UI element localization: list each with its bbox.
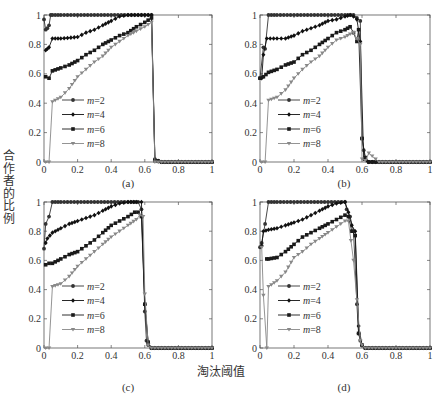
legend: m=2m=4m=6m=8 xyxy=(278,95,321,150)
panel-c: 00.20.40.60.8100.20.40.60.81m=2m=4m=6m=8 xyxy=(29,197,215,362)
data-point xyxy=(286,266,290,270)
data-point xyxy=(289,13,293,17)
y-tick-label: 0.4 xyxy=(29,98,42,109)
data-point xyxy=(335,31,339,35)
y-tick-label: 0.6 xyxy=(245,255,258,266)
y-tick-label: 0 xyxy=(252,343,257,354)
data-point xyxy=(80,33,84,38)
panel-d: 00.20.40.60.8100.20.40.60.81m=2m=4m=6m=8 xyxy=(245,197,433,362)
data-point xyxy=(326,222,330,226)
data-point xyxy=(97,46,101,50)
panel-d-caption: (d) xyxy=(324,381,364,393)
data-point xyxy=(313,211,317,216)
panel-a: 00.20.40.60.8100.20.40.60.81m=2m=4m=6m=8 xyxy=(29,10,215,176)
x-tick-label: 0.6 xyxy=(139,164,152,175)
y-tick-label: 0.2 xyxy=(245,127,258,138)
legend-marker-icon xyxy=(287,313,291,317)
data-point xyxy=(59,13,63,17)
data-point xyxy=(93,238,97,242)
data-point xyxy=(146,18,150,22)
series-m-6 xyxy=(44,210,214,349)
x-tick-label: 0 xyxy=(258,350,263,361)
data-point xyxy=(96,13,100,17)
data-point xyxy=(313,200,317,204)
legend-label: m=8 xyxy=(87,138,105,149)
data-point xyxy=(143,25,147,29)
panel-a-caption: (a) xyxy=(108,177,148,189)
data-point xyxy=(323,200,327,204)
data-point xyxy=(279,36,283,41)
data-point xyxy=(326,37,330,41)
data-point xyxy=(335,17,339,22)
data-point xyxy=(103,200,107,204)
legend-marker-icon xyxy=(71,313,75,317)
legend-marker-icon xyxy=(287,112,291,117)
data-point xyxy=(330,18,334,23)
legend-marker-icon xyxy=(287,298,291,303)
data-point xyxy=(296,200,300,204)
data-point xyxy=(301,53,305,57)
data-point xyxy=(266,285,270,289)
data-point xyxy=(343,200,347,205)
data-point xyxy=(305,215,309,220)
data-point xyxy=(289,261,293,265)
x-tick-label: 0.8 xyxy=(172,350,185,361)
data-point xyxy=(106,13,110,17)
data-point xyxy=(296,239,300,243)
data-point xyxy=(76,13,80,17)
data-point xyxy=(44,222,48,226)
x-tick-label: 0.8 xyxy=(390,350,403,361)
x-axis-label: 淘汰阈值 xyxy=(0,362,441,380)
data-point xyxy=(319,200,323,204)
data-point xyxy=(109,224,113,228)
legend-marker-icon xyxy=(71,298,75,303)
data-point xyxy=(88,29,92,34)
legend-label: m=4 xyxy=(87,295,105,306)
y-tick-label: 0.6 xyxy=(245,68,258,79)
data-point xyxy=(47,262,51,266)
legend-label: m=4 xyxy=(303,109,321,120)
data-point xyxy=(330,34,334,38)
data-point xyxy=(76,250,80,254)
data-point xyxy=(353,234,357,238)
panel-b: 00.20.40.60.8100.20.40.60.81m=2m=4m=6m=8 xyxy=(245,10,433,176)
data-point xyxy=(79,13,83,17)
data-point xyxy=(301,29,305,34)
data-point xyxy=(92,27,96,32)
data-point xyxy=(93,200,97,204)
data-point xyxy=(84,244,88,248)
data-point xyxy=(97,211,101,216)
data-point xyxy=(357,28,361,32)
data-point xyxy=(275,200,279,204)
data-point xyxy=(292,60,296,64)
data-point xyxy=(76,59,80,63)
data-point xyxy=(370,160,374,164)
series-m-8 xyxy=(43,21,214,164)
data-point xyxy=(143,302,147,306)
data-point xyxy=(72,200,76,204)
data-point xyxy=(76,35,80,40)
data-point xyxy=(42,18,46,22)
series-m-6 xyxy=(258,25,432,164)
data-point xyxy=(118,219,122,223)
y-tick-label: 1 xyxy=(252,197,257,208)
data-point xyxy=(336,13,340,17)
x-tick-label: 0.2 xyxy=(288,164,301,175)
data-point xyxy=(330,13,334,17)
x-tick-label: 0.4 xyxy=(322,164,335,175)
data-point xyxy=(282,200,286,204)
data-point xyxy=(88,51,92,55)
series-m-8 xyxy=(260,219,433,350)
x-tick-label: 1 xyxy=(428,164,433,175)
data-point xyxy=(47,76,51,80)
data-point xyxy=(62,13,66,17)
x-tick-label: 0.4 xyxy=(105,350,118,361)
x-tick-label: 0.6 xyxy=(139,350,152,361)
x-tick-label: 0 xyxy=(42,350,47,361)
data-point xyxy=(109,38,113,42)
data-point xyxy=(122,217,126,221)
data-point xyxy=(122,32,126,36)
data-point xyxy=(143,21,147,25)
data-point xyxy=(347,215,351,219)
legend-marker-icon xyxy=(287,127,291,131)
